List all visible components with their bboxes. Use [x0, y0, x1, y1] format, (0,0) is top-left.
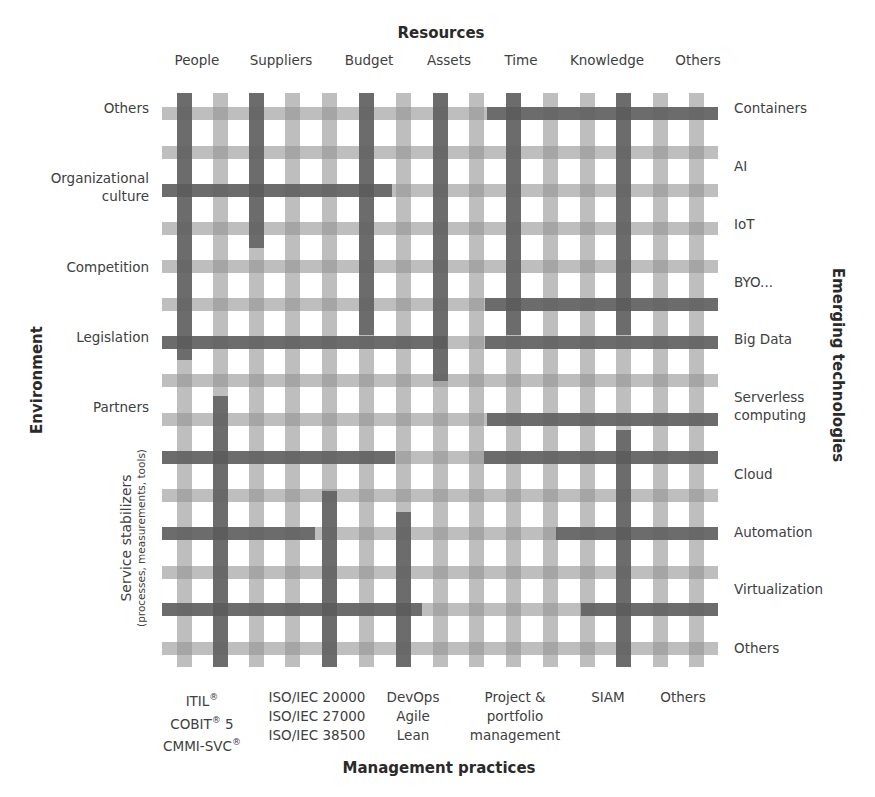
grid-col	[653, 93, 668, 667]
environment-title: Environment	[28, 326, 46, 434]
practice-lean: Lean	[387, 726, 440, 745]
link-suppliers	[249, 93, 264, 248]
tech-containers: Containers	[734, 100, 807, 117]
tech-cloud: Cloud	[734, 466, 773, 483]
practice-iso-group: ISO/IEC 20000 ISO/IEC 27000 ISO/IEC 3850…	[269, 688, 366, 745]
env-organizational: Organizational	[51, 170, 149, 187]
practice-iso-38500: ISO/IEC 38500	[269, 726, 366, 745]
practice-agile: Agile	[387, 707, 440, 726]
tech-others: Others	[734, 640, 779, 657]
service-stabilizers-sub: (processes, measurements, tools)	[134, 449, 149, 627]
grid-col	[689, 93, 704, 667]
link-organizational-culture	[162, 184, 392, 197]
link-service-left-2	[162, 527, 315, 540]
practice-itil-group: ITIL® COBIT® 5 CMMI-SVC®	[163, 688, 241, 756]
emerging-technologies-title: Emerging technologies	[829, 268, 847, 462]
resources-title: Resources	[397, 24, 484, 42]
practice-siam: SIAM	[591, 688, 624, 707]
link-time	[506, 93, 521, 335]
tech-virtualization: Virtualization	[734, 581, 823, 598]
grid-col	[469, 93, 484, 667]
env-others: Others	[104, 100, 149, 117]
service-stabilizers-label: Service stabilizers	[119, 449, 134, 627]
practice-cobit: COBIT® 5	[163, 711, 241, 734]
link-assets	[433, 93, 448, 381]
link-cloud	[484, 451, 718, 464]
link-automation	[556, 527, 718, 540]
management-practices-title: Management practices	[342, 759, 535, 777]
practice-others: Others	[660, 688, 705, 707]
practice-project-group: Project & portfolio management	[470, 688, 560, 745]
practice-project-l2: portfolio	[470, 707, 560, 726]
link-knowledge	[616, 93, 631, 335]
grid-col	[580, 93, 595, 667]
resource-assets: Assets	[427, 52, 471, 69]
link-service-left	[162, 451, 395, 464]
grid-col	[285, 93, 300, 667]
practice-project-l3: management	[470, 726, 560, 745]
resource-time: Time	[504, 52, 537, 69]
tech-serverless: Serverless	[734, 389, 804, 406]
practice-project-l1: Project &	[470, 688, 560, 707]
env-partners: Partners	[93, 399, 149, 416]
tech-automation: Automation	[734, 524, 813, 541]
tech-big-data: Big Data	[734, 331, 792, 348]
link-virtualization	[581, 603, 718, 616]
resource-knowledge: Knowledge	[570, 52, 644, 69]
service-stabilizers-title: Service stabilizers (processes, measurem…	[119, 449, 149, 627]
resource-others: Others	[675, 52, 720, 69]
practice-iso-27000: ISO/IEC 27000	[269, 707, 366, 726]
link-legislation	[162, 336, 447, 349]
env-legislation: Legislation	[76, 329, 149, 346]
practice-cmmi: CMMI-SVC®	[163, 733, 241, 756]
link-siam	[616, 430, 631, 667]
resource-suppliers: Suppliers	[250, 52, 313, 69]
practice-devops-group: DevOps Agile Lean	[387, 688, 440, 745]
env-culture: culture	[102, 188, 149, 205]
resource-people: People	[175, 52, 220, 69]
link-containers	[487, 107, 718, 120]
practice-itil: ITIL®	[163, 688, 241, 711]
tech-computing: computing	[734, 407, 806, 424]
link-iso	[322, 491, 337, 667]
link-budget	[359, 93, 374, 335]
tech-iot: IoT	[734, 216, 755, 233]
link-itil	[213, 396, 228, 667]
env-competition: Competition	[66, 259, 149, 276]
link-devops	[396, 512, 411, 667]
grid-col	[543, 93, 558, 667]
link-big-data	[485, 336, 718, 349]
practice-devops: DevOps	[387, 688, 440, 707]
link-service-left-3	[162, 603, 422, 616]
link-serverless	[487, 413, 718, 426]
resource-budget: Budget	[345, 52, 394, 69]
practice-iso-20000: ISO/IEC 20000	[269, 688, 366, 707]
tech-ai: AI	[734, 158, 747, 175]
link-people	[177, 93, 192, 360]
tech-byo: BYO...	[734, 274, 773, 291]
